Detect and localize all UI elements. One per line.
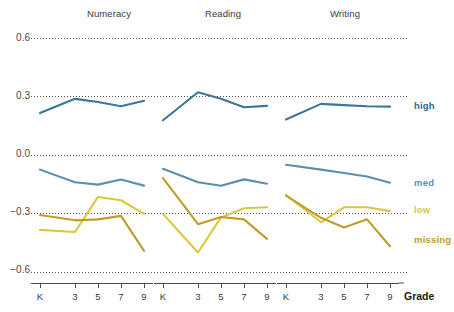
xtick-p1-1: 3 — [188, 291, 208, 302]
series-line-writing-low — [286, 195, 390, 222]
series-line-writing-med — [286, 165, 390, 183]
xtick-p2-3: 7 — [357, 291, 377, 302]
axis-rules — [31, 283, 404, 288]
series-label-low: low — [414, 204, 430, 215]
series-label-missing: missing — [414, 234, 451, 245]
series-line-writing-missing — [286, 196, 390, 247]
xtick-p2-4: 9 — [380, 291, 400, 302]
plot-area — [0, 0, 454, 312]
xtick-p1-3: 7 — [234, 291, 254, 302]
xtick-p2-0: K — [276, 291, 296, 302]
xtick-p1-2: 5 — [211, 291, 231, 302]
xtick-p0-4: 9 — [134, 291, 154, 302]
series-line-writing-high — [286, 104, 390, 120]
series-lines — [40, 92, 390, 252]
xtick-p2-1: 3 — [311, 291, 331, 302]
xtick-p1-4: 9 — [257, 291, 277, 302]
xtick-p1-0: K — [153, 291, 173, 302]
series-line-reading-low — [163, 207, 267, 252]
series-label-med: med — [414, 177, 434, 188]
series-line-numeracy-med — [40, 170, 144, 186]
x-axis-title: Grade — [404, 290, 434, 302]
series-line-numeracy-high — [40, 99, 144, 113]
gridlines — [31, 38, 408, 272]
xtick-p2-2: 5 — [334, 291, 354, 302]
series-line-numeracy-missing — [40, 215, 144, 251]
series-line-reading-med — [163, 169, 267, 186]
xtick-p0-1: 3 — [65, 291, 85, 302]
series-label-high: high — [414, 100, 435, 111]
chart-root: Numeracy Reading Writing 0.6 0.3 0.0 −0.… — [0, 0, 454, 312]
xtick-p0-2: 5 — [88, 291, 108, 302]
xtick-p0-3: 7 — [111, 291, 131, 302]
xtick-p0-0: K — [30, 291, 50, 302]
